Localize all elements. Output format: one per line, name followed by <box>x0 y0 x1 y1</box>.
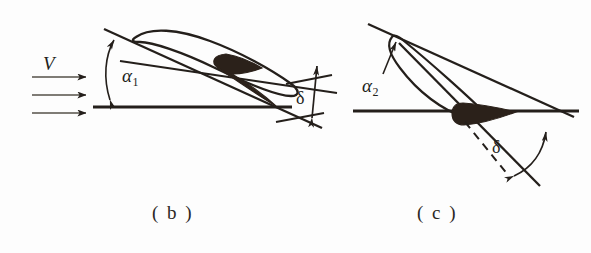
alpha2-label: α2 <box>362 76 378 98</box>
delta-ref-line-lower-b <box>276 113 324 122</box>
panel-b-graphics <box>32 29 337 128</box>
delta-dimension-arrow-b <box>312 66 317 118</box>
delta-ref-line-upper-b <box>286 75 332 84</box>
delta-label-b: δ <box>296 89 304 107</box>
alpha1-label: α1 <box>122 66 138 88</box>
figure-container: V α1 δ α2 δ ( b ) ( c ) <box>0 0 591 253</box>
alpha1-angle-arc <box>106 40 114 100</box>
velocity-label-b: V <box>43 54 55 73</box>
alpha2-symbol: α <box>362 75 372 96</box>
alpha1-symbol: α <box>122 65 132 86</box>
figure-vector-graphics <box>0 0 591 253</box>
flow-arrow-group-b <box>32 77 86 113</box>
delta-label-c: δ <box>492 138 500 156</box>
delta-angle-arc-c <box>514 132 546 176</box>
alpha2-subscript: 2 <box>372 85 378 99</box>
caption-panel-c: ( c ) <box>417 202 458 224</box>
alpha1-subscript: 1 <box>132 75 138 89</box>
panel-c-graphics <box>353 24 579 186</box>
caption-panel-b: ( b ) <box>152 202 194 224</box>
camber-fill-c <box>452 103 516 125</box>
